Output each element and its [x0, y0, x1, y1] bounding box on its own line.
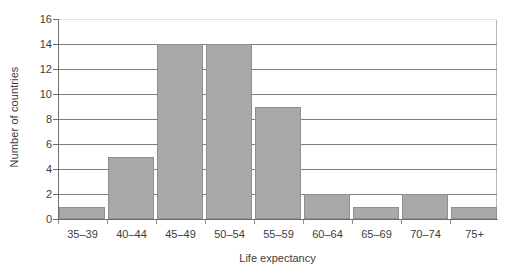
y-tick-label-2: 2 — [28, 188, 52, 200]
x-tick-mark-1 — [107, 220, 108, 224]
x-tick-mark-7 — [401, 220, 402, 224]
y-tick-label-8: 8 — [28, 113, 52, 125]
x-label-55-59: 55–59 — [254, 228, 303, 240]
bar-70-74 — [402, 194, 448, 219]
y-tick-label-16: 16 — [28, 13, 52, 25]
x-label-35-39: 35–39 — [58, 228, 107, 240]
bar-60-64 — [304, 194, 350, 219]
x-tick-mark-6 — [352, 220, 353, 224]
x-label-60-64: 60–64 — [303, 228, 352, 240]
x-axis-title: Life expectancy — [58, 252, 497, 264]
histogram-chart: Number of countries 16 14 12 10 8 6 4 2 … — [0, 0, 513, 274]
bars-group — [58, 19, 497, 219]
bar-55-59 — [255, 107, 301, 220]
y-tick-label-4: 4 — [28, 163, 52, 175]
x-label-65-69: 65–69 — [352, 228, 401, 240]
x-label-75-plus: 75+ — [450, 228, 499, 240]
x-label-40-44: 40–44 — [107, 228, 156, 240]
x-tick-mark-2 — [156, 220, 157, 224]
bar-65-69 — [353, 207, 399, 220]
bar-50-54 — [206, 44, 252, 219]
y-tick-label-0: 0 — [28, 213, 52, 225]
x-tick-mark-5 — [303, 220, 304, 224]
x-tick-mark-4 — [254, 220, 255, 224]
y-tick-label-12: 12 — [28, 63, 52, 75]
x-label-70-74: 70–74 — [401, 228, 450, 240]
bar-45-49 — [157, 44, 203, 219]
bar-75-plus — [451, 207, 497, 220]
x-label-45-49: 45–49 — [156, 228, 205, 240]
y-axis-title: Number of countries — [6, 14, 22, 220]
x-axis-line — [58, 219, 498, 220]
y-tick-label-10: 10 — [28, 88, 52, 100]
x-tick-mark-0 — [58, 220, 59, 224]
y-tick-label-6: 6 — [28, 138, 52, 150]
x-tick-mark-3 — [205, 220, 206, 224]
x-label-50-54: 50–54 — [205, 228, 254, 240]
bar-35-39 — [59, 207, 105, 220]
bar-40-44 — [108, 157, 154, 220]
x-tick-mark-8 — [450, 220, 451, 224]
y-tick-label-14: 14 — [28, 38, 52, 50]
y-axis-title-label: Number of countries — [8, 67, 20, 168]
